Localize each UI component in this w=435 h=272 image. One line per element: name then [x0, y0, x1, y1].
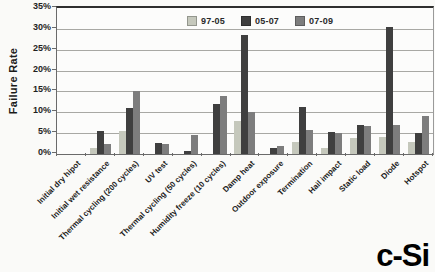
bar: [306, 130, 313, 154]
x-category-label: Hail impact: [252, 159, 343, 250]
bar: [379, 137, 386, 154]
legend-label: 97-05: [201, 16, 225, 26]
bar: [321, 148, 328, 154]
x-tick-mark: [85, 153, 86, 156]
bar: [220, 96, 227, 154]
y-tick-label: 25%: [0, 44, 51, 53]
bar: [162, 144, 169, 154]
bar: [299, 107, 306, 154]
y-tick-mark: [52, 6, 56, 7]
bar: [292, 142, 299, 155]
bar-group: [375, 8, 404, 154]
bar-group: [346, 8, 375, 154]
y-tick-label: 20%: [0, 65, 51, 74]
y-tick-mark: [52, 89, 56, 90]
y-tick-label: 10%: [0, 106, 51, 115]
x-tick-mark: [374, 153, 375, 156]
bar: [234, 121, 241, 154]
bar: [408, 142, 415, 155]
bar: [191, 135, 198, 154]
x-category-label: Thermal cycling (200 cycles): [49, 159, 140, 250]
x-tick-mark: [258, 153, 259, 156]
bar-group: [86, 8, 115, 154]
legend: 97-0505-0707-09: [187, 16, 333, 26]
y-tick-mark: [52, 27, 56, 28]
bar: [415, 133, 422, 154]
failure-rate-chart: Failure Rate 0%5%10%15%20%25%30%35% 97-0…: [0, 0, 435, 272]
legend-label: 05-07: [255, 16, 279, 26]
legend-label: 07-09: [309, 16, 333, 26]
x-tick-mark: [345, 153, 346, 156]
bar: [126, 108, 133, 154]
x-tick-mark: [316, 153, 317, 156]
bar: [393, 125, 400, 154]
bar: [213, 104, 220, 154]
x-tick-mark: [201, 153, 202, 156]
bar: [155, 143, 162, 154]
legend-swatch-icon: [187, 16, 197, 26]
technology-label: c-Si: [376, 238, 429, 272]
y-tick-mark: [52, 69, 56, 70]
x-category-label: Outdoor exposure: [194, 159, 285, 250]
bar: [277, 146, 284, 154]
y-tick-label: 15%: [0, 85, 51, 94]
y-tick-label: 30%: [0, 23, 51, 32]
x-tick-mark: [114, 153, 115, 156]
x-tick-mark: [432, 153, 433, 156]
legend-item: 97-05: [187, 16, 225, 26]
y-tick-label: 0%: [0, 148, 51, 157]
y-tick-mark: [52, 131, 56, 132]
bar: [328, 132, 335, 154]
bar: [248, 112, 255, 154]
bar: [270, 148, 277, 154]
bar: [350, 138, 357, 154]
y-tick-mark: [52, 48, 56, 49]
legend-item: 07-09: [295, 16, 333, 26]
bar-group: [288, 8, 317, 154]
bar-group: [144, 8, 173, 154]
bar: [184, 151, 191, 154]
bar-group: [173, 8, 202, 154]
x-tick-mark: [403, 153, 404, 156]
bar-group: [202, 8, 231, 154]
x-tick-mark: [56, 153, 57, 156]
x-tick-mark: [287, 153, 288, 156]
bar: [133, 91, 140, 154]
legend-swatch-icon: [295, 16, 305, 26]
bar: [386, 27, 393, 154]
x-category-label: Humidity freeze (10 cycles): [136, 159, 227, 250]
x-tick-mark: [230, 153, 231, 156]
y-tick-label: 5%: [0, 127, 51, 136]
bar-group: [404, 8, 433, 154]
bar: [119, 131, 126, 154]
bar: [97, 131, 104, 154]
bar-group: [231, 8, 260, 154]
x-category-label: Termination: [223, 159, 314, 250]
x-category-label: Hotspot: [339, 159, 430, 250]
x-category-label: Thermal cycling (50 cycles): [107, 159, 198, 250]
y-axis-tick-labels: 0%5%10%15%20%25%30%35%: [0, 0, 51, 272]
bar-group: [115, 8, 144, 154]
bar-group: [57, 8, 86, 154]
y-tick-label: 35%: [0, 2, 51, 11]
x-category-label: UV test: [78, 159, 169, 250]
y-tick-mark: [52, 110, 56, 111]
x-category-label: Static load: [281, 159, 372, 250]
bar: [357, 125, 364, 154]
x-tick-mark: [143, 153, 144, 156]
bar: [104, 144, 111, 154]
bar-groups: [57, 8, 433, 154]
bar-group: [259, 8, 288, 154]
bar: [241, 35, 248, 154]
bar: [335, 133, 342, 154]
bar: [364, 126, 371, 154]
x-category-label: Damp heat: [165, 159, 256, 250]
x-category-label: Diode: [310, 159, 401, 250]
bar: [90, 148, 97, 154]
legend-item: 05-07: [241, 16, 279, 26]
plot-area: 97-0505-0707-09: [56, 6, 434, 155]
legend-swatch-icon: [241, 16, 251, 26]
x-tick-mark: [172, 153, 173, 156]
bar-group: [317, 8, 346, 154]
bar: [422, 116, 429, 154]
